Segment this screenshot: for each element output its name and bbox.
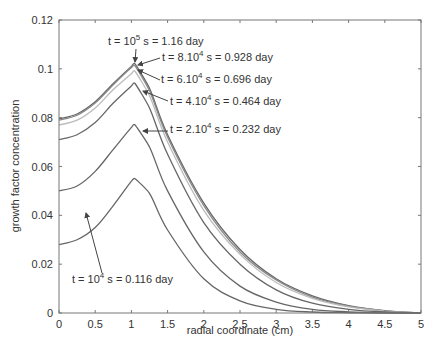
x-tick-label: 3.5 (305, 318, 320, 330)
annotation-label: t = 6.104 s = 0.696 day (161, 71, 272, 85)
x-tick-label: 1 (128, 318, 134, 330)
annotation-arrow (135, 49, 136, 62)
x-tick-label: 0.5 (88, 318, 103, 330)
x-tick-label: 4 (346, 318, 352, 330)
y-tick-label: 0.04 (32, 209, 53, 221)
y-axis-label: growth factor concentration (9, 100, 21, 233)
x-tick-label: 0 (56, 318, 62, 330)
y-tick-label: 0.06 (32, 161, 53, 173)
series-line (59, 178, 421, 313)
y-tick-label: 0.12 (32, 14, 53, 26)
annotation-label: t = 104 s = 0.116 day (72, 271, 173, 285)
y-tick-label: 0.02 (32, 258, 53, 270)
annotations: t = 105 s = 1.16 dayt = 8.104 s = 0.928 … (72, 33, 281, 285)
y-tick-label: 0.1 (38, 63, 53, 75)
annotation-label: t = 8.104 s = 0.928 day (162, 49, 273, 63)
x-tick-label: 5 (418, 318, 424, 330)
y-tick-label: 0.08 (32, 112, 53, 124)
x-tick-label: 4.5 (377, 318, 392, 330)
chart: 00.511.522.533.544.5500.020.040.060.080.… (0, 0, 442, 356)
annotation-arrow (143, 91, 168, 101)
annotation-label: t = 2.104 s = 0.232 day (170, 121, 281, 135)
annotation-arrow (138, 58, 160, 65)
plot-frame (59, 20, 421, 313)
y-tick-label: 0 (47, 307, 53, 319)
x-axis-label: radial coordinate (cm) (187, 324, 293, 336)
annotation-label: t = 105 s = 1.16 day (108, 33, 204, 47)
annotation-label: t = 4.104 s = 0.464 day (170, 93, 281, 107)
x-tick-label: 1.5 (160, 318, 175, 330)
